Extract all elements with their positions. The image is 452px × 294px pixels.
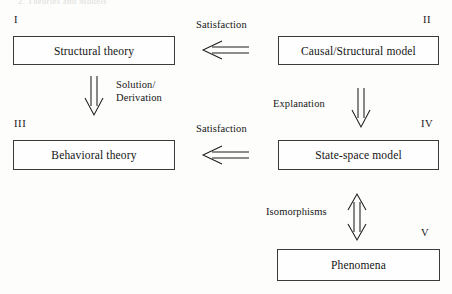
box-numeral-iv: IV: [421, 118, 433, 129]
box-numeral-iii: III: [14, 118, 26, 129]
box-state-space-model-label: State-space model: [315, 149, 402, 161]
page-running-head: 2. Theories and Models: [18, 0, 107, 6]
double-left-arrow-icon: [202, 146, 250, 164]
box-behavioral-theory-label: Behavioral theory: [51, 149, 136, 161]
box-phenomena: Phenomena: [277, 249, 440, 281]
edge-label-satisfaction-top: Satisfaction: [196, 18, 247, 31]
box-structural-theory-label: Structural theory: [54, 45, 134, 57]
edge-label-solution-line2: Derivation: [116, 91, 162, 104]
edge-label-isomorphisms: Isomorphisms: [266, 205, 327, 218]
edge-label-solution-derivation: Solution/ Derivation: [116, 78, 162, 105]
double-left-arrow-icon: [202, 41, 250, 59]
box-behavioral-theory: Behavioral theory: [13, 140, 175, 170]
double-updown-arrow-icon: [348, 193, 366, 241]
edge-label-satisfaction-bottom: Satisfaction: [196, 122, 247, 135]
box-causal-structural-model: Causal/Structural model: [278, 36, 439, 65]
box-state-space-model: State-space model: [278, 140, 439, 170]
box-phenomena-label: Phenomena: [331, 259, 386, 271]
box-numeral-v: V: [421, 227, 429, 238]
box-numeral-ii: II: [423, 14, 431, 25]
double-down-arrow-icon: [352, 88, 370, 128]
edge-label-solution-line1: Solution/: [116, 78, 162, 91]
edge-label-explanation: Explanation: [273, 97, 325, 110]
double-down-arrow-icon: [85, 76, 103, 116]
theories-and-models-diagram: 2. Theories and Models I II III IV V Str…: [0, 0, 452, 294]
box-structural-theory: Structural theory: [13, 36, 175, 65]
box-causal-structural-model-label: Causal/Structural model: [301, 45, 416, 57]
box-numeral-i: I: [14, 14, 18, 25]
